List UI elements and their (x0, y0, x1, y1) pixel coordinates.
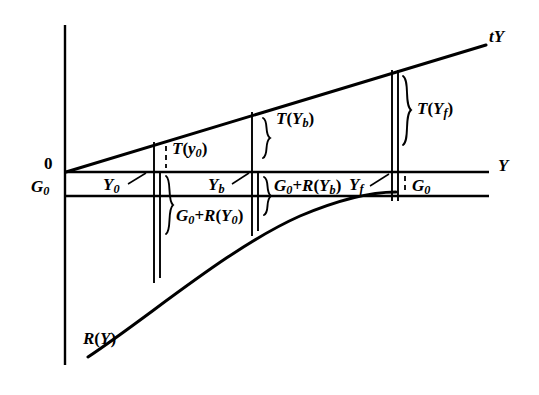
yb-leader-line (232, 173, 249, 184)
y0-leader-line (128, 173, 146, 184)
g0-right-label: G0 (412, 177, 430, 197)
g0-axis-label: G0 (31, 178, 49, 198)
diagram-canvas (0, 0, 539, 395)
origin-label: 0 (44, 155, 53, 172)
yf-leader-line (370, 174, 389, 186)
y0-label: Y0 (103, 176, 120, 196)
t-yb-label: T(Yb) (276, 110, 314, 130)
economics-diagram-figure: 0 G0 Y tY R(Y) Y0 Yb Yf T(y0) T(Yb) T(Yf… (0, 0, 539, 395)
g0-r-y0-brace (166, 176, 173, 234)
y-axis-label: Y (498, 157, 508, 174)
t-yb-brace (263, 118, 270, 158)
ry-curve-label: R(Y) (83, 330, 116, 347)
g0-plus-r-y0-label: G0+R(Y0) (176, 207, 243, 227)
yb-label: Yb (208, 176, 225, 196)
yf-label: Yf (349, 176, 363, 196)
ty-line-label: tY (489, 28, 504, 45)
t-yf-label: T(Yf) (417, 100, 453, 120)
g0-plus-r-yb-label: G0+R(Yb) (274, 177, 341, 197)
t-y0-label: T(y0) (172, 140, 207, 160)
t-yf-brace (403, 76, 411, 145)
